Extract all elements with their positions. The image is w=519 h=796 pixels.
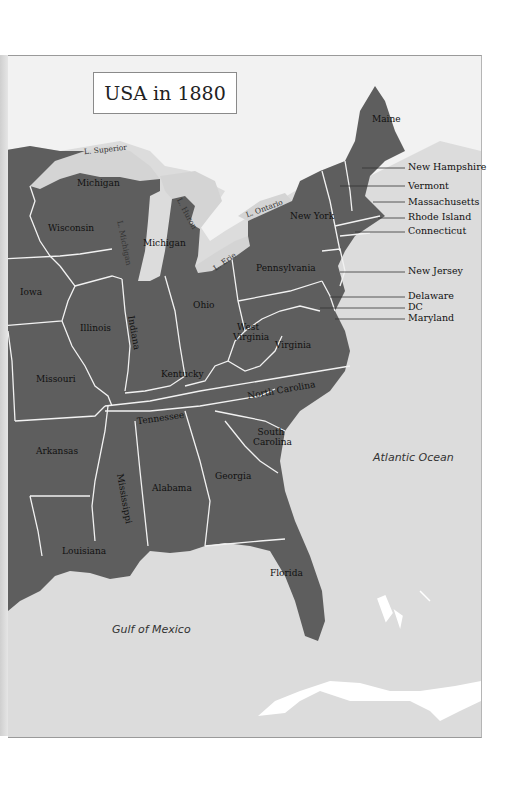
map-canvas xyxy=(8,55,482,738)
callout-new-jersey: New Jersey xyxy=(408,266,463,276)
state-label-maine: Maine xyxy=(372,115,401,124)
state-label-arkansas: Arkansas xyxy=(36,447,78,456)
callout-maryland: Maryland xyxy=(408,313,454,323)
state-label-michigan-upper: Michigan xyxy=(77,179,120,188)
callout-delaware: Delaware xyxy=(408,291,454,301)
state-label-missouri: Missouri xyxy=(36,375,76,384)
map-frame xyxy=(8,55,482,738)
water-label-atlantic-ocean: Atlantic Ocean xyxy=(373,451,454,464)
state-label-georgia: Georgia xyxy=(215,472,251,481)
state-label-louisiana: Louisiana xyxy=(62,547,106,556)
map-title: USA in 1880 xyxy=(93,72,237,114)
state-label-florida: Florida xyxy=(270,569,303,578)
callout-massachusetts: Massachusetts xyxy=(408,197,479,207)
cuba xyxy=(258,681,481,721)
state-label-iowa: Iowa xyxy=(20,288,42,297)
state-label-south-carolina: South Carolina xyxy=(253,427,289,448)
state-label-new-york: New York xyxy=(290,212,334,221)
state-label-pennsylvania: Pennsylvania xyxy=(256,264,316,273)
water-label-gulf-of-mexico: Gulf of Mexico xyxy=(112,623,191,636)
state-label-ohio: Ohio xyxy=(193,301,214,310)
state-label-wisconsin: Wisconsin xyxy=(48,224,94,233)
callout-vermont: Vermont xyxy=(408,181,449,191)
callout-rhode-island: Rhode Island xyxy=(408,212,471,222)
bahamas xyxy=(378,591,430,626)
state-label-west-virginia: West Virginia xyxy=(233,322,263,343)
state-label-alabama: Alabama xyxy=(152,484,192,493)
state-label-illinois: Illinois xyxy=(80,324,111,333)
callout-new-hampshire: New Hampshire xyxy=(408,162,486,172)
state-label-michigan-lower: Michigan xyxy=(143,239,186,248)
state-label-virginia: Virginia xyxy=(275,341,311,350)
state-label-kentucky: Kentucky xyxy=(161,370,204,379)
callout-connecticut: Connecticut xyxy=(408,226,466,236)
callout-dc: DC xyxy=(408,302,423,312)
